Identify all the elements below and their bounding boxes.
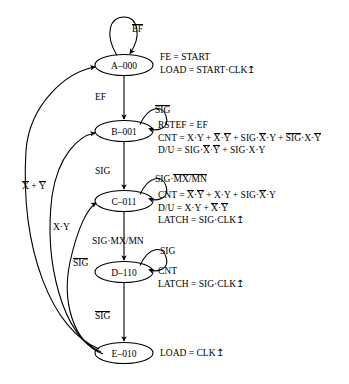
self-loop-A[interactable] — [110, 17, 137, 56]
output-C-line-1: CNT = X·Y + X·Y + SIG·X·Y — [158, 189, 276, 202]
c-cnt-tail: ·Y — [266, 190, 276, 200]
b-cnt-plus1: + SIG· — [231, 133, 260, 143]
output-B-line-1: RSTEF = EF — [158, 119, 321, 132]
output-A-line-1: FE = START — [160, 51, 255, 64]
state-label-A: A–000 — [111, 61, 137, 71]
edge-label-E-to-C: SIG — [73, 258, 88, 269]
edge-label-E-to-B: X·Y — [53, 222, 70, 233]
self-loop-A-text: EF — [132, 24, 143, 35]
output-B-line-3: D/U = SIG·X·Y + SIG·X·Y — [158, 144, 321, 157]
edge-label-A-to-B: EF — [95, 92, 106, 103]
self-loop-label-A: EF — [132, 24, 143, 35]
c-cnt-y1: Y — [197, 190, 204, 201]
output-E-line-1: LOAD = CLK↥ — [160, 347, 224, 360]
b-du-y: Y — [213, 145, 220, 156]
b-cnt-mid2: ·X· — [301, 133, 314, 143]
output-A-line-2-text: LOAD = START·CLK — [160, 65, 247, 75]
edge-label-D-to-E: SIG — [95, 311, 110, 322]
outputs-state-D: CNT LATCH = SIG·CLK↥ — [158, 265, 244, 290]
c-du-x: X — [211, 203, 218, 214]
outputs-state-B: RSTEF = EF CNT = X·Y + X·Y + SIG·X·Y + S… — [158, 119, 321, 157]
c-du-y: Y — [221, 203, 228, 214]
b-cnt-head: CNT = X·Y + — [158, 133, 214, 143]
c-cnt-x1: X — [187, 190, 194, 201]
e-eq-text: LOAD = CLK — [160, 348, 216, 358]
outputs-state-C: CNT = X·Y + X·Y + SIG·X·Y D/U = X·Y + X·… — [158, 189, 276, 227]
clk-edge-icon-e: ↥ — [216, 348, 224, 358]
self-loop-C-head: SIG· — [155, 174, 173, 184]
b-cnt-x2: X — [259, 133, 266, 144]
b-du-tail: + SIG·X·Y — [220, 145, 265, 155]
output-D-line-2: LATCH = SIG·CLK↥ — [158, 278, 244, 291]
c-du-head: D/U = X·Y + — [158, 203, 211, 213]
b-du-x: X — [203, 145, 210, 156]
outputs-state-A: FE = START LOAD = START·CLK↥ — [160, 51, 255, 76]
output-C-line-2: D/U = X·Y + X·Y — [158, 202, 276, 215]
edge-label-B-to-C: SIG — [95, 166, 110, 177]
self-loop-label-C: SIG·MX/MN — [155, 174, 207, 185]
edge-E-to-A[interactable] — [25, 67, 99, 349]
output-C-line-3: LATCH = SIG·CLK↥ — [158, 214, 276, 227]
state-label-B: B–001 — [111, 127, 137, 137]
clk-edge-icon-c: ↥ — [236, 215, 244, 225]
edge-D-to-E-text: SIG — [95, 311, 110, 322]
clk-edge-icon: ↥ — [247, 65, 255, 75]
c-latch-text: LATCH = SIG·CLK — [158, 215, 236, 225]
e-to-a-plus: + — [29, 181, 39, 191]
b-cnt-y1: Y — [224, 133, 231, 144]
clk-edge-icon-d: ↥ — [236, 279, 244, 289]
state-label-E: E–010 — [112, 349, 137, 359]
e-to-c-text: SIG — [73, 258, 88, 269]
b-du-head: D/U = SIG· — [158, 145, 203, 155]
d-latch-text: LATCH = SIG·CLK — [158, 279, 236, 289]
edge-label-C-to-D: SIG·MX/MN — [92, 236, 144, 247]
c-cnt-head: CNT = — [158, 190, 187, 200]
self-loop-label-B: SIG — [155, 105, 170, 116]
self-loop-label-D: SIG — [160, 246, 175, 257]
self-loop-C-bar: MX/MN — [173, 174, 206, 185]
edge-label-E-to-A: X + Y — [22, 181, 46, 192]
b-cnt-sig: SIG — [286, 133, 301, 144]
e-to-a-x: X — [22, 181, 29, 192]
outputs-state-E: LOAD = CLK↥ — [160, 347, 224, 360]
state-label-D: D–110 — [111, 268, 137, 278]
self-loop-B-text: SIG — [155, 105, 170, 116]
b-cnt-y2: Y — [314, 133, 321, 144]
output-A-line-2: LOAD = START·CLK↥ — [160, 64, 255, 77]
edge-E-to-C[interactable] — [67, 203, 103, 354]
output-D-line-1: CNT — [158, 265, 244, 278]
c-cnt-x2: X — [259, 190, 266, 201]
b-cnt-tail1: ·Y + — [266, 133, 286, 143]
e-to-a-y: Y — [39, 181, 46, 192]
state-diagram-figure: A–000 B–001 C–011 D–110 E–010 EF EF SIG … — [0, 0, 349, 384]
state-label-C: C–011 — [112, 197, 137, 207]
c-cnt-mid: + X·Y + SIG· — [204, 190, 259, 200]
output-B-line-2: CNT = X·Y + X·Y + SIG·X·Y + SIG·X·Y — [158, 132, 321, 145]
